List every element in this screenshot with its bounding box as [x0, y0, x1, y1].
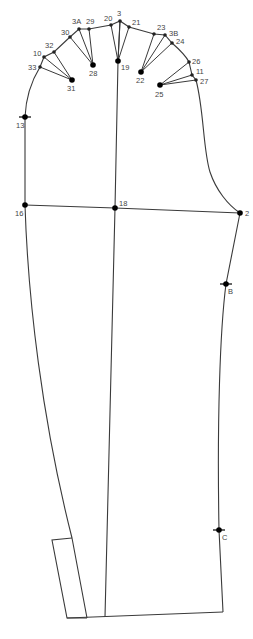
point-marker-icon [152, 32, 156, 36]
point-marker-icon [157, 82, 163, 88]
bicep-line [25, 205, 240, 213]
left-seam-line [25, 117, 87, 618]
right-seam-line [218, 213, 240, 612]
point-marker-icon [69, 77, 75, 83]
point-marker-icon [87, 27, 91, 31]
point-22: 22 [136, 69, 144, 85]
point-label: 30 [61, 28, 69, 37]
point-marker-icon [38, 65, 42, 69]
point-label: 27 [200, 77, 208, 86]
centre-grain-line [105, 21, 120, 617]
point-marker-icon [223, 281, 229, 287]
point-label: 25 [155, 90, 163, 99]
point-marker-icon [52, 50, 56, 54]
point-marker-icon [22, 114, 28, 120]
point-marker-icon [22, 202, 28, 208]
points-layer: 32021293A30321033312819233B2422261127251… [15, 9, 249, 542]
point-label: 23 [157, 23, 165, 32]
point-32: 32 [45, 41, 56, 54]
point-marker-icon [115, 58, 121, 64]
point-marker-icon [194, 78, 198, 82]
point-marker-icon [138, 69, 144, 75]
sleeve-pattern-diagram: 32021293A30321033312819233B2422261127251… [0, 0, 253, 639]
point-20: 20 [104, 14, 113, 27]
point-marker-icon [127, 25, 131, 29]
point-25: 25 [155, 82, 163, 99]
point-21: 21 [127, 18, 140, 29]
point-18: 18 [112, 199, 127, 211]
point-label: 11 [196, 67, 204, 76]
point-label: 29 [86, 17, 94, 26]
point-label: 19 [121, 63, 129, 72]
point-marker-icon [42, 55, 46, 59]
point-24: 24 [170, 37, 184, 46]
point-label: 31 [67, 84, 75, 93]
notch-marks [19, 117, 232, 530]
point-label: 20 [104, 14, 112, 23]
point-label: 32 [45, 41, 53, 50]
point-31: 31 [67, 77, 75, 93]
point-label: 18 [119, 199, 127, 208]
point-label: 16 [15, 209, 23, 218]
point-marker-icon [90, 62, 96, 68]
point-30: 30 [61, 28, 72, 39]
point-28: 28 [89, 62, 97, 78]
point-marker-icon [118, 19, 122, 23]
point-label: 22 [136, 76, 144, 85]
point-marker-icon [163, 33, 167, 37]
point-23: 23 [152, 23, 165, 36]
point-label: 3A [72, 17, 81, 26]
point-marker-icon [112, 205, 118, 211]
point-label: 33 [28, 63, 36, 72]
point-label: B [228, 287, 233, 296]
point-label: 3 [117, 9, 121, 18]
point-27: 27 [194, 77, 208, 86]
point-label: 24 [176, 37, 184, 46]
cuff-tab [52, 538, 87, 618]
point-label: 21 [132, 18, 140, 27]
point-label: 13 [16, 121, 24, 130]
point-marker-icon [109, 23, 113, 27]
point-marker-icon [237, 210, 243, 216]
point-10: 10 [33, 49, 46, 59]
point-33: 33 [28, 63, 42, 72]
point-marker-icon [190, 73, 194, 77]
point-marker-icon [216, 527, 222, 533]
hem-line [67, 612, 223, 618]
point-marker-icon [77, 27, 81, 31]
point-label: 2 [245, 209, 249, 218]
point-label: 28 [89, 69, 97, 78]
point-marker-icon [187, 60, 191, 64]
point-label: 26 [192, 57, 200, 66]
point-3A: 3A [72, 17, 81, 31]
point-marker-icon [170, 41, 174, 45]
point-label: C [222, 533, 228, 542]
point-3: 3 [117, 9, 122, 23]
sleeve-cap-outline [25, 21, 240, 213]
point-label: 10 [33, 49, 41, 58]
point-11: 11 [190, 67, 204, 77]
